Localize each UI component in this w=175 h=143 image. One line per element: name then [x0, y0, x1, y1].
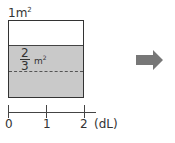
fraction-label: 2 3: [20, 47, 30, 72]
area-label: 1m2: [8, 3, 32, 20]
tick-label-0: 0: [5, 117, 13, 131]
tick-label-2: 2: [80, 117, 88, 131]
number-line: [8, 112, 96, 113]
axis-unit: (dL): [94, 117, 118, 131]
fraction-unit: m2: [34, 54, 47, 66]
area-box: 2 3 m2: [8, 20, 84, 98]
right-arrow-icon: [136, 50, 166, 70]
tick-label-1: 1: [43, 117, 51, 131]
